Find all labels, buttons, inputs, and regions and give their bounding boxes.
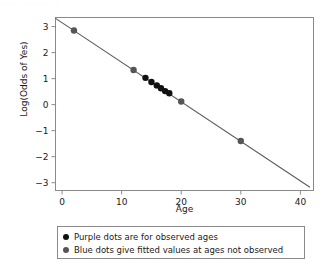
data-point-observed [142, 75, 148, 81]
legend-item-fitted-label: Blue dots give fitted values at ages not… [74, 245, 283, 255]
data-point-fitted [71, 27, 77, 33]
purple-dot-icon [63, 234, 69, 240]
data-point-fitted [178, 98, 184, 104]
x-axis-title: Age [55, 204, 314, 214]
axis-tick-labels: 0102030403210−1−2−3 [35, 22, 306, 207]
svg-text:2: 2 [43, 48, 49, 58]
data-point-fitted [238, 138, 244, 144]
svg-text:1: 1 [43, 74, 49, 84]
blue-dot-icon [63, 247, 69, 253]
svg-text:0: 0 [43, 100, 49, 110]
data-point-observed [148, 79, 154, 85]
axis-ticks [52, 27, 301, 195]
chart-figure: 0102030403210−1−2−3 Log(Odds of Yes) Age… [0, 0, 329, 266]
y-axis-title: Log(Odds of Yes) [19, 14, 29, 144]
legend-item-observed: Purple dots are for observed ages [63, 230, 304, 243]
data-point-fitted [130, 67, 136, 73]
svg-text:3: 3 [43, 22, 49, 32]
svg-text:−1: −1 [35, 126, 48, 136]
svg-text:−3: −3 [35, 178, 48, 188]
legend-item-fitted: Blue dots give fitted values at ages not… [63, 243, 304, 256]
legend-item-observed-label: Purple dots are for observed ages [74, 232, 218, 242]
svg-text:−2: −2 [35, 152, 48, 162]
data-point-observed [166, 90, 172, 96]
chart-legend: Purple dots are for observed ages Blue d… [57, 226, 305, 259]
